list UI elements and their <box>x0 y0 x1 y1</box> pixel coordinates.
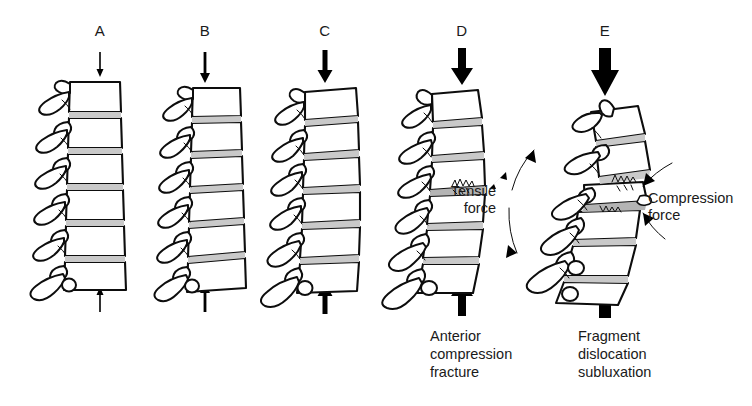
axial-load-arrow-a <box>97 52 104 77</box>
axial-load-arrow-c <box>318 50 333 83</box>
panel-letter-c: C <box>310 22 340 39</box>
spine-compression-figure: A B C D E Tensile force Compression forc… <box>0 0 752 406</box>
spine-d <box>382 48 507 316</box>
axial-load-arrow-b <box>200 52 210 83</box>
caption-anterior-compression-fracture: Anterior compression fracture <box>430 327 540 381</box>
axial-load-arrow-d <box>451 48 473 85</box>
axial-load-arrow-e <box>591 48 619 96</box>
spine-e <box>506 48 672 318</box>
spine-c <box>261 50 360 314</box>
panel-letter-d: D <box>447 22 477 39</box>
tensile-force-label: Tensile force <box>400 183 496 217</box>
tensile-force-arrow-lower <box>506 208 517 258</box>
panel-letter-a: A <box>85 22 115 39</box>
spine-a <box>30 52 126 312</box>
caption-fragment-dislocation-subluxation: Fragment dislocation subluxation <box>578 327 698 381</box>
panel-letter-b: B <box>190 22 220 39</box>
tensile-force-arrow-upper <box>512 150 536 190</box>
compression-force-label: Compression force <box>648 190 748 224</box>
panel-letter-e: E <box>590 22 620 39</box>
spine-b <box>154 52 246 312</box>
